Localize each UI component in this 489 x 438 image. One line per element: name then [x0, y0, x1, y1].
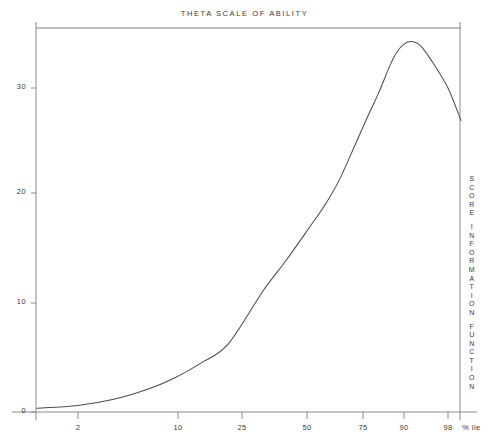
x-tick-marks	[78, 412, 448, 419]
right-axis-label-word: SCORE	[465, 175, 479, 218]
data-curve	[37, 42, 461, 409]
chart-figure: THETA SCALE OF ABILITY 0	[0, 0, 489, 438]
y-tick-marks	[31, 88, 36, 412]
x-tick-label-75: 75	[353, 423, 373, 432]
x-tick-label-2: 2	[68, 423, 88, 432]
y-tick-label-20: 20	[10, 187, 26, 196]
x-axis-unit-label: % ile	[462, 423, 481, 432]
y-tick-label-10: 10	[10, 297, 26, 306]
chart-canvas	[0, 0, 489, 438]
x-tick-label-98: 98	[438, 423, 458, 432]
y-tick-label-30: 30	[10, 82, 26, 91]
x-tick-label-50: 50	[297, 423, 317, 432]
y-tick-label-0: 0	[10, 406, 26, 415]
x-tick-label-10: 10	[168, 423, 188, 432]
x-tick-label-25: 25	[232, 423, 252, 432]
right-axis-label-word: FUNCTION	[465, 323, 479, 392]
x-tick-label-90: 90	[394, 423, 414, 432]
right-axis-label-word: INFORMATION	[465, 223, 479, 318]
right-axis-label: SCOREINFORMATIONFUNCTION	[465, 175, 479, 396]
